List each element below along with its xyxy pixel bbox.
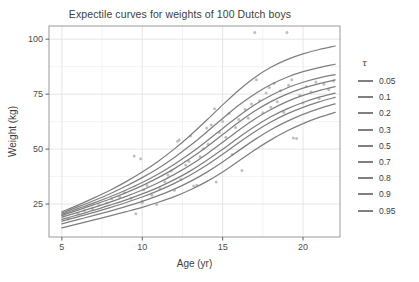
scatter-point <box>234 126 237 129</box>
scatter-point <box>205 126 208 129</box>
scatter-point <box>255 78 258 81</box>
legend-line-icon <box>358 129 373 131</box>
scatter-point <box>295 137 298 140</box>
legend-label: 0.3 <box>379 125 391 135</box>
chart-figure: Expectile curves for weights of 100 Dutc… <box>0 0 419 282</box>
legend-label: 0.95 <box>379 206 396 216</box>
scatter-point <box>314 81 317 84</box>
scatter-point <box>240 169 243 172</box>
x-axis-label: Age (yr) <box>177 258 213 269</box>
scatter-point <box>146 184 149 187</box>
scatter-point <box>224 136 227 139</box>
legend-title: τ <box>362 58 419 68</box>
scatter-point <box>276 100 279 103</box>
legend-items: 0.050.10.20.30.50.70.80.90.95 <box>358 73 419 219</box>
scatter-point <box>133 155 136 158</box>
scatter-point <box>221 120 224 123</box>
scatter-point <box>253 31 256 34</box>
y-axis-label: Weight (kg) <box>7 106 18 157</box>
scatter-point <box>166 174 169 177</box>
legend-line-icon <box>358 177 373 179</box>
scatter-point <box>213 107 216 110</box>
legend-label: 0.7 <box>379 157 391 167</box>
legend-item-0.2[interactable]: 0.2 <box>358 105 419 121</box>
legend-line-icon <box>358 96 373 98</box>
legend-line-icon <box>358 145 373 147</box>
scatter-point <box>163 180 166 183</box>
scatter-point <box>237 118 240 121</box>
scatter-point <box>250 103 253 106</box>
plot-area: 5101520255075100Age (yr)Weight (kg) <box>0 0 419 282</box>
scatter-point <box>247 117 250 120</box>
scatter-point <box>210 123 213 126</box>
scatter-point <box>134 212 137 215</box>
scatter-point <box>184 163 187 166</box>
legend-label: 0.5 <box>379 141 391 151</box>
legend-line-icon <box>358 210 373 212</box>
legend-item-0.3[interactable]: 0.3 <box>358 122 419 138</box>
legend-line-icon <box>358 112 373 114</box>
legend-item-0.8[interactable]: 0.8 <box>358 170 419 186</box>
x-tick-label: 15 <box>218 242 228 252</box>
legend-label: 0.1 <box>379 92 391 102</box>
y-tick-label: 25 <box>33 199 43 209</box>
legend-label: 0.05 <box>379 76 396 86</box>
legend-label: 0.8 <box>379 173 391 183</box>
legend-line-icon <box>358 193 373 195</box>
y-tick-label: 75 <box>33 89 43 99</box>
y-tick-label: 100 <box>28 34 43 44</box>
scatter-point <box>215 181 218 184</box>
legend-line-icon <box>358 161 373 163</box>
legend: τ 0.050.10.20.30.50.70.80.90.95 <box>358 58 419 219</box>
legend-item-0.1[interactable]: 0.1 <box>358 89 419 105</box>
scatter-point <box>292 137 295 140</box>
x-tick-label: 10 <box>137 242 147 252</box>
legend-item-0.7[interactable]: 0.7 <box>358 154 419 170</box>
y-tick-label: 50 <box>33 144 43 154</box>
scatter-point <box>139 157 142 160</box>
x-tick-label: 20 <box>298 242 308 252</box>
legend-item-0.95[interactable]: 0.95 <box>358 203 419 219</box>
x-tick-label: 5 <box>59 242 64 252</box>
legend-label: 0.2 <box>379 108 391 118</box>
scatter-point <box>178 139 181 142</box>
scatter-point <box>290 78 293 81</box>
legend-item-0.5[interactable]: 0.5 <box>358 138 419 154</box>
legend-label: 0.9 <box>379 189 391 199</box>
legend-item-0.05[interactable]: 0.05 <box>358 73 419 89</box>
scatter-point <box>285 31 288 34</box>
legend-item-0.9[interactable]: 0.9 <box>358 186 419 202</box>
legend-line-icon <box>358 80 373 82</box>
scatter-point <box>265 92 268 95</box>
